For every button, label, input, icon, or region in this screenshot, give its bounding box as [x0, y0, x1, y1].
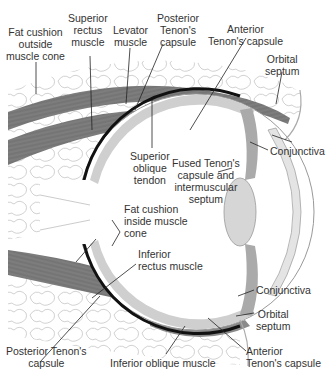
label-anterior-tenon-bottom: AnteriorTenon's capsule [246, 345, 321, 369]
label-posterior-tenon-bottom: Posterior Tenon'scapsule [6, 345, 87, 369]
label-conjunctiva-bottom: Conjunctiva [256, 284, 311, 296]
label-orbital-septum-bottom: Orbitalseptum [256, 308, 290, 332]
label-superior-rectus: Superiorrectusmuscle [68, 12, 108, 48]
label-posterior-tenon-top: PosteriorTenon'scapsule [157, 12, 199, 48]
label-inferior-rectus: Inferiorrectus muscle [138, 248, 203, 272]
label-fat-cushion-inside: Fat cushioninside musclecone [124, 203, 188, 239]
label-orbital-septum-top: Orbitalseptum [265, 53, 299, 77]
label-fat-cushion-outside: Fat cushionoutsidemuscle cone [6, 26, 65, 62]
eye-orbit-diagram: Fat cushionoutsidemuscle cone Superiorre… [0, 0, 331, 373]
label-inferior-oblique: Inferior oblique muscle [110, 357, 216, 369]
label-superior-oblique: Superiorobliquetendon [130, 150, 170, 186]
label-anterior-tenon-top: AnteriorTenon's capsule [208, 23, 283, 47]
optic-region [40, 180, 90, 244]
label-levator: Levatormuscle [113, 24, 148, 48]
label-fused-tenon: Fused Tenon'scapsule andintermuscularsep… [172, 157, 240, 205]
label-conjunctiva-top: Conjunctiva [270, 145, 325, 157]
